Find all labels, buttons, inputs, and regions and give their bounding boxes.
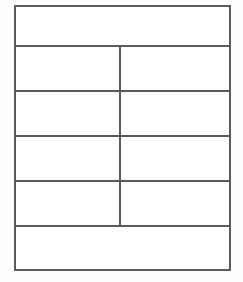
table-row <box>16 47 229 92</box>
form-table <box>14 5 231 271</box>
table-cell[interactable] <box>121 92 229 135</box>
table-cell[interactable] <box>16 182 121 225</box>
table-row <box>16 227 229 269</box>
table-cell[interactable] <box>121 182 229 225</box>
table-row <box>16 137 229 182</box>
table-row <box>16 182 229 227</box>
table-cell[interactable] <box>121 47 229 90</box>
table-cell[interactable] <box>16 137 121 180</box>
table-row <box>16 7 229 47</box>
table-cell[interactable] <box>16 92 121 135</box>
table-cell[interactable] <box>121 137 229 180</box>
table-cell[interactable] <box>16 227 229 269</box>
page-canvas <box>0 0 243 282</box>
table-cell[interactable] <box>16 47 121 90</box>
table-cell[interactable] <box>16 7 229 45</box>
table-row <box>16 92 229 137</box>
